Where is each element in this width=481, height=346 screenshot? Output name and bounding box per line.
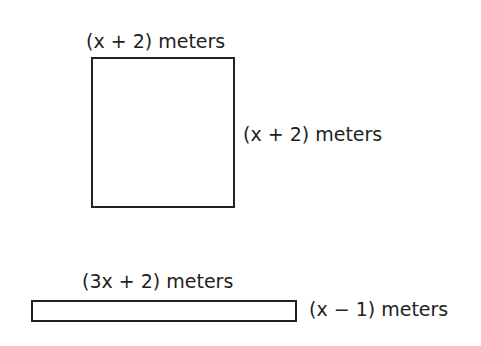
square-side-label: (x + 2) meters	[243, 125, 382, 144]
square-top-label: (x + 2) meters	[86, 32, 225, 51]
square	[91, 57, 235, 208]
rectangle-top-label: (3x + 2) meters	[82, 272, 233, 291]
rectangle-side-label: (x − 1) meters	[309, 300, 448, 319]
rectangle	[31, 300, 297, 322]
